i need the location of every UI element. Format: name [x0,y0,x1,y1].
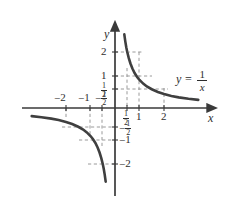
plot-canvas [0,0,230,215]
ytick-label-half-fraction: 1 2 [101,82,107,100]
fraction-denominator: 2 [101,90,107,99]
fraction-numerator: 1 [125,120,131,128]
xtick-label-2: 2 [161,111,167,122]
xtick-label-1: 1 [136,111,142,122]
equation-lhs: y [176,72,181,86]
fraction-numerator: 1 [101,82,107,90]
fraction-numerator: 1 [123,110,129,118]
ytick-label-2: 2 [101,46,107,57]
xtick-label-neg1: −1 [78,92,90,104]
fraction-denominator: 2 [101,98,107,107]
equation-equals: = [184,72,192,86]
equation-denominator: x [197,80,207,93]
ytick-label-neg2-value: 2 [125,157,131,169]
equation-label: y = 1 x [176,68,207,93]
ytick-label-1: 1 [101,70,107,81]
ytick-label-neg2: −2 [119,158,131,170]
curve-branch-negative [32,116,106,182]
graph-figure: y x y = 1 x −2 −1 − 1 2 1 2 1 2 2 1 1 2 [0,0,230,215]
ytick-label-neg1: −1 [119,134,131,146]
ytick-label-neg1-value: 1 [125,133,131,145]
xtick-label-neg2-value: 2 [60,91,66,103]
equation-numerator: 1 [197,68,207,80]
xtick-label-neg1-value: 1 [84,91,90,103]
xtick-label-neg2: −2 [54,92,66,104]
equation-fraction: 1 x [197,68,207,93]
ytick-label-half: 1 2 [101,82,107,100]
y-axis-label: y [104,28,109,40]
x-axis-label: x [208,112,213,124]
